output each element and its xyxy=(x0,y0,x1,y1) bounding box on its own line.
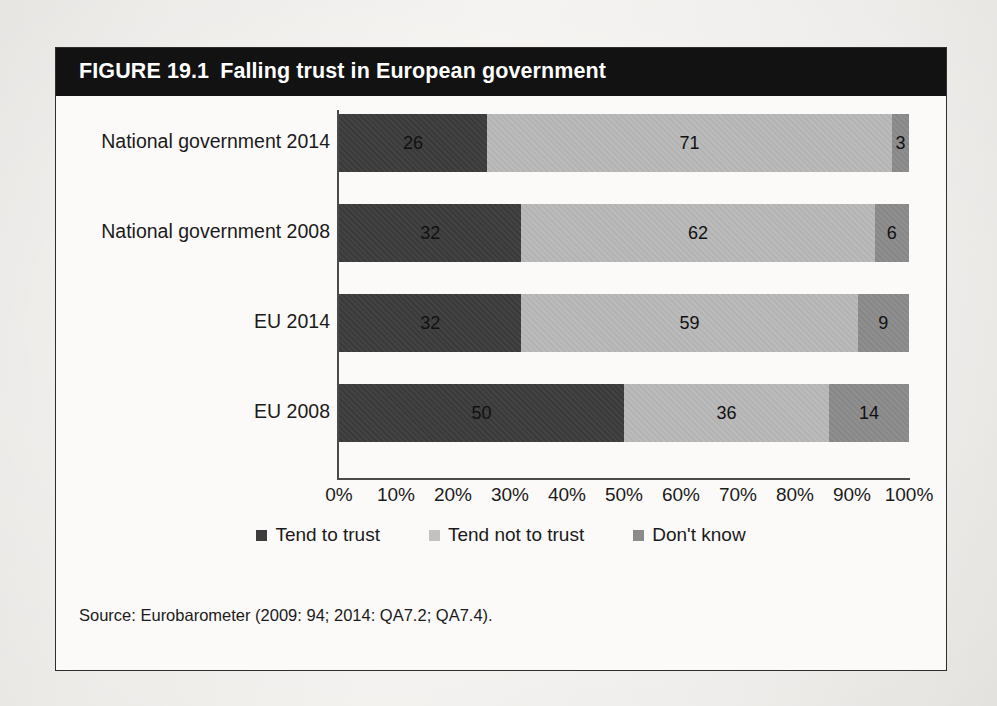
x-tick-label: 70% xyxy=(719,484,757,506)
x-tick-label: 90% xyxy=(833,484,871,506)
figure-number: FIGURE 19.1 xyxy=(79,59,209,83)
scanned-page: FIGURE 19.1Falling trust in European gov… xyxy=(0,0,997,706)
bar-value-label: 62 xyxy=(688,224,708,242)
bar-value-label: 59 xyxy=(680,314,700,332)
category-label: National government 2008 xyxy=(50,220,330,243)
bar-segment: 32 xyxy=(339,294,521,352)
figure-title-text: Falling trust in European government xyxy=(220,59,606,83)
x-tick-label: 60% xyxy=(662,484,700,506)
legend-swatch-icon xyxy=(633,530,644,541)
bar-value-label: 3 xyxy=(895,134,905,152)
legend-label: Tend to trust xyxy=(275,524,380,546)
x-tick-label: 80% xyxy=(776,484,814,506)
bar-segment: 71 xyxy=(487,114,892,172)
legend-swatch-icon xyxy=(429,530,440,541)
bar-value-label: 6 xyxy=(887,224,897,242)
bar-value-label: 32 xyxy=(420,314,440,332)
x-tick-label: 20% xyxy=(434,484,472,506)
bar-value-label: 26 xyxy=(403,134,423,152)
bar-segment: 6 xyxy=(875,204,909,262)
stacked-bar-row: 32599 xyxy=(339,294,909,352)
x-tick-label: 50% xyxy=(605,484,643,506)
bar-segment: 59 xyxy=(521,294,857,352)
x-tick-label: 0% xyxy=(325,484,352,506)
category-label: EU 2014 xyxy=(50,310,330,333)
chart-legend: Tend to trustTend not to trustDon't know xyxy=(56,524,946,546)
bar-segment: 50 xyxy=(339,384,624,442)
bar-segment: 3 xyxy=(892,114,909,172)
figure-box: FIGURE 19.1Falling trust in European gov… xyxy=(55,47,947,671)
x-tick-label: 100% xyxy=(885,484,934,506)
bar-segment: 32 xyxy=(339,204,521,262)
bar-value-label: 50 xyxy=(471,404,491,422)
legend-label: Tend not to trust xyxy=(448,524,584,546)
category-label: National government 2014 xyxy=(50,130,330,153)
stacked-bar-row: 32626 xyxy=(339,204,909,262)
bar-value-label: 14 xyxy=(859,404,879,422)
figure-title: FIGURE 19.1Falling trust in European gov… xyxy=(79,59,606,84)
x-axis-tick-labels: 0%10%20%30%40%50%60%70%80%90%100% xyxy=(339,484,909,510)
bar-value-label: 9 xyxy=(878,314,888,332)
stacked-bar-row: 503614 xyxy=(339,384,909,442)
legend-swatch-icon xyxy=(256,530,267,541)
bar-value-label: 32 xyxy=(420,224,440,242)
legend-item[interactable]: Tend to trust xyxy=(256,524,380,546)
bar-segment: 62 xyxy=(521,204,874,262)
x-axis-line xyxy=(337,478,910,480)
x-tick-label: 10% xyxy=(377,484,415,506)
legend-item[interactable]: Tend not to trust xyxy=(429,524,584,546)
x-tick-label: 40% xyxy=(548,484,586,506)
legend-label: Don't know xyxy=(652,524,745,546)
bar-value-label: 36 xyxy=(717,404,737,422)
bar-segment: 9 xyxy=(858,294,909,352)
category-label: EU 2008 xyxy=(50,400,330,423)
chart-plot-area: National government 2014National governm… xyxy=(56,96,946,672)
bar-segment: 36 xyxy=(624,384,829,442)
bar-segment: 26 xyxy=(339,114,487,172)
stacked-bar-row: 26713 xyxy=(339,114,909,172)
figure-header-bar: FIGURE 19.1Falling trust in European gov… xyxy=(56,48,946,96)
bar-segment: 14 xyxy=(829,384,909,442)
bar-value-label: 71 xyxy=(680,134,700,152)
source-note: Source: Eurobarometer (2009: 94; 2014: Q… xyxy=(79,606,493,625)
x-tick-label: 30% xyxy=(491,484,529,506)
legend-item[interactable]: Don't know xyxy=(633,524,745,546)
